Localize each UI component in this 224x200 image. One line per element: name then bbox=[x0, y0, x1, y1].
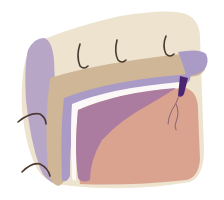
anatomical-illustration bbox=[0, 0, 224, 200]
illustration-svg bbox=[0, 0, 224, 200]
